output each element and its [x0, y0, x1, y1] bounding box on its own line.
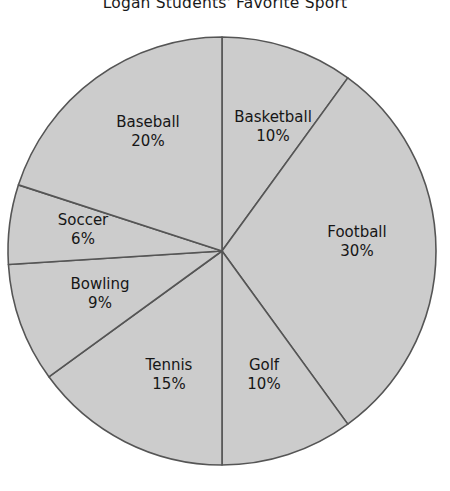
pie-slices — [8, 37, 436, 465]
pie-chart-svg — [0, 0, 450, 491]
pie-chart-figure: Logan Students' Favorite Sport Basketbal… — [0, 0, 450, 491]
